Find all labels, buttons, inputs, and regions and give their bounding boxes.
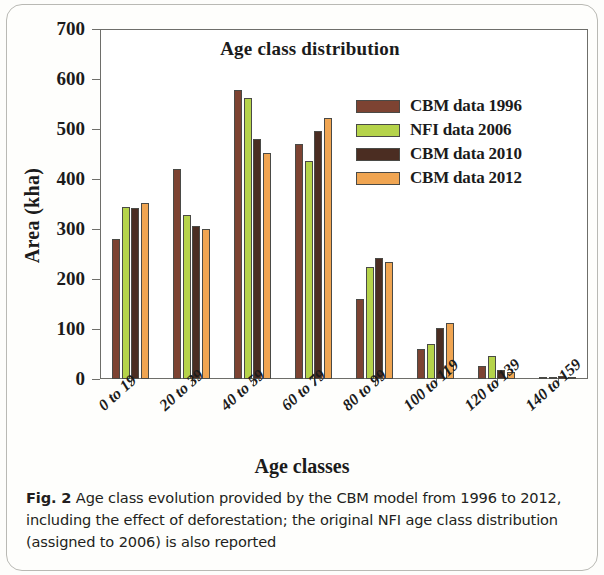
x-axis-tick-labels: 0 to 1920 to 3940 to 5960 to 7980 to 991… <box>0 0 604 480</box>
x-tick-label: 100 to 119 <box>400 356 462 415</box>
legend-swatch-icon <box>356 148 400 161</box>
legend-item[interactable]: NFI data 2006 <box>356 118 576 142</box>
legend-label: CBM data 2012 <box>410 168 522 188</box>
x-tick-label: 120 to 139 <box>461 355 524 414</box>
x-tick-label: 140 to 159 <box>522 355 585 414</box>
caption-figure-number: Fig. 2 <box>26 489 71 506</box>
x-tick-label: 40 to 59 <box>217 366 268 414</box>
legend-label: NFI data 2006 <box>410 120 511 140</box>
figure-page: Area (kha) 0100200300400500600700 Age cl… <box>0 0 604 575</box>
x-axis-title: Age classes <box>0 455 604 478</box>
legend-item[interactable]: CBM data 2010 <box>356 142 576 166</box>
legend-item[interactable]: CBM data 2012 <box>356 166 576 190</box>
legend-swatch-icon <box>356 172 400 185</box>
x-tick-label: 80 to 99 <box>339 366 390 414</box>
legend-swatch-icon <box>356 124 400 137</box>
x-tick-label: 20 to 39 <box>156 366 207 414</box>
legend-label: CBM data 2010 <box>410 144 522 164</box>
caption-body: Age class evolution provided by the CBM … <box>26 489 561 550</box>
chart-legend: CBM data 1996NFI data 2006CBM data 2010C… <box>356 94 576 190</box>
figure-caption: Fig. 2 Age class evolution provided by t… <box>26 487 582 554</box>
bar-chart: Area (kha) 0100200300400500600700 Age cl… <box>0 0 604 480</box>
x-tick-label: 0 to 19 <box>95 371 140 414</box>
legend-item[interactable]: CBM data 1996 <box>356 94 576 118</box>
legend-label: CBM data 1996 <box>410 96 522 116</box>
legend-swatch-icon <box>356 100 400 113</box>
x-tick-label: 60 to 79 <box>278 366 329 414</box>
